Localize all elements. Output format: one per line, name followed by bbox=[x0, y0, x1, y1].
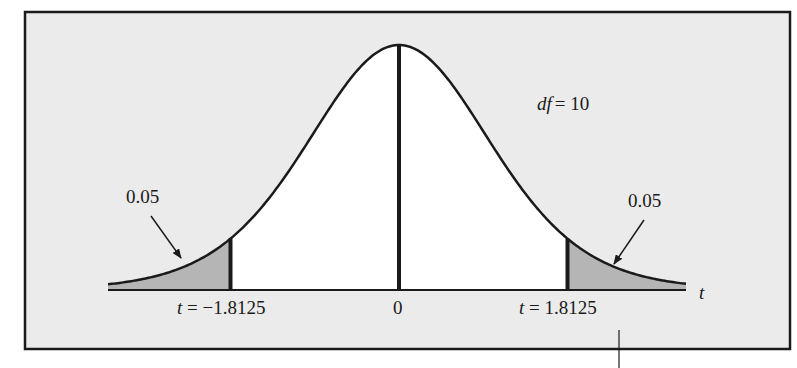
x-axis-label: t bbox=[699, 282, 705, 303]
df-label: df= 10 bbox=[537, 93, 589, 114]
center-tick-label: 0 bbox=[393, 297, 403, 318]
t-distribution-chart: df= 10 0.05 0.05 t = −1.8125 0 t = 1.812… bbox=[0, 0, 797, 368]
right-tail-area-label: 0.05 bbox=[628, 190, 661, 211]
left-critical-value-label: t = −1.8125 bbox=[177, 297, 265, 318]
right-critical-value-label: t = 1.8125 bbox=[519, 297, 597, 318]
left-tail-area-label: 0.05 bbox=[126, 186, 159, 207]
